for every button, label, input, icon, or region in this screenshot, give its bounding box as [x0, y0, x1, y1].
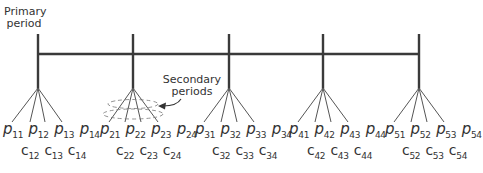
c-13: c13 — [44, 142, 62, 158]
p-labels-group-1: p11 p12 p13 p14 — [3, 120, 101, 138]
primary-period-line2: period — [4, 18, 44, 30]
p-31: p31 — [195, 120, 215, 138]
p-33: p33 — [246, 120, 266, 138]
c-24: c24 — [163, 142, 181, 158]
p-44: p44 — [366, 120, 386, 138]
c-54: c54 — [449, 142, 467, 158]
p-52: p52 — [411, 120, 431, 138]
fan-5 — [394, 88, 444, 122]
c-12: c12 — [21, 142, 39, 158]
c-42: c42 — [307, 142, 325, 158]
p-42: p42 — [315, 120, 335, 138]
p-43: p43 — [340, 120, 360, 138]
secondary-arrow — [158, 99, 181, 110]
c-53: c53 — [425, 142, 443, 158]
c-33: c33 — [235, 142, 253, 158]
p-labels-group-2: p21 p22 p23 p24 — [100, 120, 198, 138]
c-22: c22 — [116, 142, 134, 158]
c-labels-group-3: c32 c33 c34 — [212, 142, 278, 158]
p-23: p23 — [151, 120, 171, 138]
secondary-periods-label: Secondary periods — [156, 74, 228, 98]
c-labels-group-5: c52 c53 c54 — [402, 142, 468, 158]
c-43: c43 — [330, 142, 348, 158]
p-21: p21 — [100, 120, 120, 138]
c-labels-group-4: c42 c43 c44 — [307, 142, 373, 158]
p-54: p54 — [462, 120, 482, 138]
p-51: p51 — [385, 120, 405, 138]
fan-1 — [12, 88, 62, 122]
p-13: p13 — [54, 120, 74, 138]
arrowhead-icon — [158, 103, 166, 110]
fan-2 — [109, 88, 158, 122]
p-14: p14 — [80, 120, 100, 138]
p-32: p32 — [221, 120, 241, 138]
c-44: c44 — [354, 142, 372, 158]
c-32: c32 — [212, 142, 230, 158]
p-labels-group-5: p51 p52 p53 p54 — [385, 120, 483, 138]
p-53: p53 — [436, 120, 456, 138]
primary-period-stems — [38, 34, 419, 89]
p-41: p41 — [289, 120, 309, 138]
c-23: c23 — [139, 142, 157, 158]
c-14: c14 — [68, 142, 86, 158]
p-labels-group-3: p31 p32 p33 p34 — [195, 120, 293, 138]
p-12: p12 — [29, 120, 49, 138]
secondary-fans — [12, 88, 444, 122]
c-labels-group-2: c22 c23 c24 — [116, 142, 182, 158]
p-22: p22 — [126, 120, 146, 138]
p-24: p24 — [177, 120, 197, 138]
fan-4 — [298, 88, 348, 122]
p-11: p11 — [3, 120, 23, 138]
c-34: c34 — [259, 142, 277, 158]
secondary-periods-line2: periods — [156, 86, 228, 98]
p-labels-group-4: p41 p42 p43 p44 — [289, 120, 387, 138]
c-52: c52 — [402, 142, 420, 158]
c-labels-group-1: c12 c13 c14 — [21, 142, 87, 158]
primary-period-label: Primary period — [4, 6, 44, 30]
